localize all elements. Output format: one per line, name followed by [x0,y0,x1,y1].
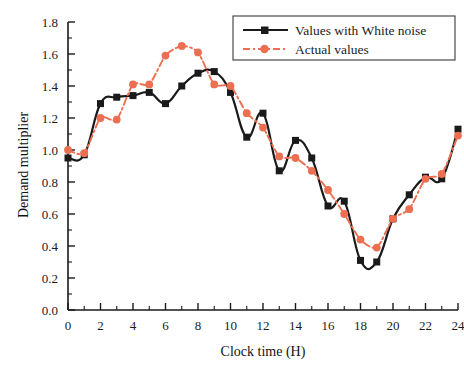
data-point-marker [340,210,348,218]
y-tick-label: 1.2 [42,111,58,126]
data-point-marker [325,203,332,210]
data-point-marker [357,257,364,264]
y-tick-label: 1.0 [42,143,58,158]
data-point-marker [405,205,413,213]
data-point-marker [64,146,72,154]
x-tick-label: 22 [419,318,432,333]
y-tick-label: 0.6 [42,207,59,222]
data-point-marker [292,154,300,162]
data-point-marker [324,186,332,194]
data-point-marker [389,215,397,223]
data-point-marker [292,137,299,144]
y-axis-title: Demand multiplier [16,112,31,218]
chart-container: 0.00.20.40.60.81.01.21.41.61.8 024681012… [0,0,464,365]
data-point-marker [97,100,104,107]
data-point-marker [145,81,153,89]
x-tick-label: 4 [130,318,137,333]
series-values-with-white-noise [65,68,462,269]
data-point-marker [308,167,316,175]
y-tick-label: 0.4 [42,239,59,254]
data-point-marker [80,149,88,157]
data-point-marker [308,155,315,162]
data-point-marker [194,49,202,57]
data-point-marker [130,92,137,99]
data-point-marker [260,110,267,117]
data-point-marker [97,114,105,122]
series-actual-values [64,42,462,251]
data-point-marker [211,68,218,75]
y-tick-label: 0.8 [42,175,58,190]
x-tick-label: 12 [257,318,270,333]
data-point-marker [422,175,430,183]
data-point-marker [341,198,348,205]
legend-label-0: Values with White noise [295,23,426,38]
data-point-marker [178,83,185,90]
data-point-marker [373,244,381,252]
data-point-marker [227,82,235,90]
x-tick-label: 20 [387,318,400,333]
data-point-marker [65,155,72,162]
x-tick-label: 14 [289,318,303,333]
x-tick-label: 10 [224,318,237,333]
x-tick-label: 8 [195,318,202,333]
y-tick-label: 0.2 [42,271,58,286]
x-axis-ticks: 024681012141618202224 [65,303,464,333]
legend-label-1: Actual values [295,42,369,57]
legend-marker-circle [260,45,268,53]
data-point-marker [129,81,137,89]
y-tick-label: 1.6 [42,47,59,62]
x-tick-label: 16 [322,318,336,333]
x-axis-title: Clock time (H) [221,344,306,360]
data-point-marker [275,153,283,161]
x-tick-label: 0 [65,318,72,333]
data-point-marker [438,170,446,178]
x-tick-label: 6 [162,318,169,333]
y-tick-label: 1.4 [42,79,59,94]
data-point-marker [454,132,462,140]
x-tick-label: 24 [452,318,464,333]
x-tick-label: 18 [354,318,367,333]
data-point-marker [162,52,170,60]
data-point-marker [406,191,413,198]
series-line [68,46,458,248]
data-point-marker [210,81,218,89]
data-point-marker [178,42,186,50]
data-point-marker [243,134,250,141]
y-tick-label: 0.0 [42,303,58,318]
data-point-marker [162,100,169,107]
data-point-marker [259,124,267,132]
y-axis-ticks: 0.00.20.40.60.81.01.21.41.61.8 [42,15,75,318]
data-point-marker [195,70,202,77]
data-point-marker [276,167,283,174]
data-series-layer [64,42,462,269]
demand-multiplier-chart: 0.00.20.40.60.81.01.21.41.61.8 024681012… [0,0,464,365]
legend: Values with White noise Actual values [233,16,455,60]
x-tick-label: 2 [97,318,104,333]
y-tick-label: 1.8 [42,15,58,30]
data-point-marker [243,109,251,117]
data-point-marker [113,94,120,101]
data-point-marker [373,259,380,266]
data-point-marker [357,236,365,244]
data-point-marker [146,89,153,96]
legend-marker-square [261,27,269,35]
data-point-marker [113,116,121,124]
data-point-marker [455,126,462,133]
